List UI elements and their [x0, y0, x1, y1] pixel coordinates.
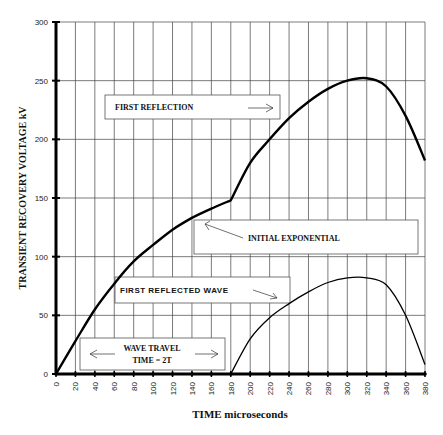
y-tick-label: 300: [35, 18, 49, 27]
wave-travel-label-line1: WAVE TRAVEL: [123, 344, 180, 353]
x-tick-label: 360: [402, 381, 411, 395]
x-tick-label: 40: [91, 381, 100, 390]
y-tick-label: 0: [44, 370, 49, 379]
x-tick-label: 80: [130, 381, 139, 390]
x-tick-label: 260: [304, 381, 313, 395]
y-tick-label: 50: [39, 311, 48, 320]
x-tick-label: 200: [246, 381, 255, 395]
x-tick-label: 60: [110, 381, 119, 390]
x-tick-label: 160: [207, 381, 216, 395]
x-tick-label: 320: [363, 381, 372, 395]
y-tick-label: 250: [35, 77, 49, 86]
grid-lines: [56, 22, 425, 374]
y-tick-label: 150: [35, 194, 49, 203]
x-tick-label: 340: [382, 381, 391, 395]
x-tick-label: 140: [188, 381, 197, 395]
annotation-initial-exponential: INITIAL EXPONENTIAL: [194, 220, 418, 254]
x-tick-label: 0: [52, 381, 61, 386]
first-reflection-label: FIRST REFLECTION: [115, 103, 194, 112]
x-tick-label: 280: [324, 381, 333, 395]
x-axis-label: TIME microseconds: [192, 408, 288, 420]
x-tick-label: 240: [285, 381, 294, 395]
y-tick-label: 100: [35, 253, 49, 262]
y-tick-label: 200: [35, 135, 49, 144]
x-tick-label: 120: [169, 381, 178, 395]
x-tick-label: 220: [266, 381, 275, 395]
x-tick-label: 380: [421, 381, 430, 395]
wave-travel-label-line2: TIME = 2T: [132, 356, 172, 365]
annotation-first-reflection: FIRST REFLECTION: [105, 95, 280, 119]
annotation-first-reflected-wave: FIRST REFLECTED WAVE: [115, 277, 290, 303]
x-tick-label: 20: [71, 381, 80, 390]
x-tick-label: 100: [149, 381, 158, 395]
tr-voltage-chart: 050100150200250300 020406080100120140160…: [0, 0, 443, 435]
initial-exponential-label: INITIAL EXPONENTIAL: [248, 234, 340, 243]
y-axis-label: TRANSIENT RECOVERY VOLTAGE kV: [17, 106, 28, 290]
x-tick-label: 300: [343, 381, 352, 395]
annotation-wave-travel: WAVE TRAVEL TIME = 2T: [80, 338, 225, 370]
first-reflected-wave-label: FIRST REFLECTED WAVE: [120, 286, 229, 295]
x-tick-label: 180: [227, 381, 236, 395]
